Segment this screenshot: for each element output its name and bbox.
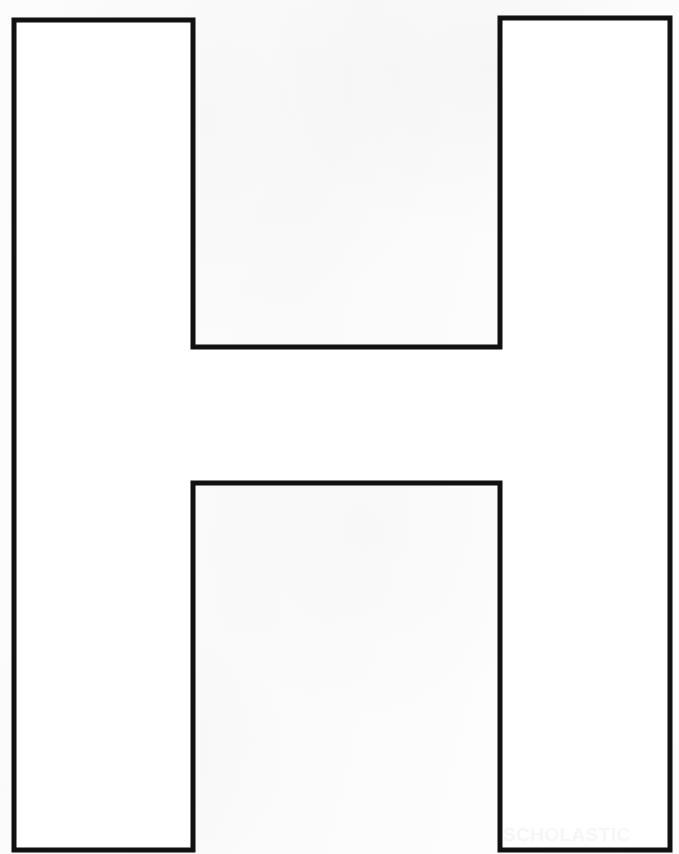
letter-h-shape xyxy=(14,18,670,850)
letter-h-outline-svg xyxy=(0,0,679,854)
letter-template-page: SCHOLASTIC xyxy=(0,0,679,854)
